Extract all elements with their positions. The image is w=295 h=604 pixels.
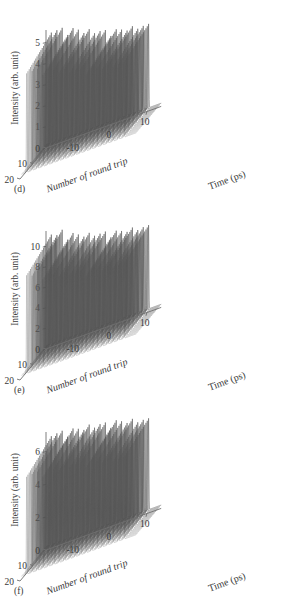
panel-f: 642-1001020100Intensity (arb. unit)Numbe…	[0, 402, 295, 603]
y-axis-label: Intensity (arb. unit)	[10, 51, 21, 125]
figure-page: 54321-1001020100Intensity (arb. unit)Num…	[0, 0, 295, 604]
x-axis-label: Time (ps)	[207, 570, 248, 595]
svg-text:10: 10	[31, 242, 41, 252]
svg-text:20: 20	[5, 577, 15, 587]
z-axis-label: Number of round trip	[44, 155, 129, 195]
panel-f-plot: 642-1001020100Intensity (arb. unit)Numbe…	[0, 402, 295, 603]
svg-text:-10: -10	[66, 344, 79, 354]
svg-text:10: 10	[140, 519, 150, 529]
svg-text:0: 0	[106, 331, 111, 341]
svg-text:10: 10	[18, 561, 28, 571]
svg-text:10: 10	[18, 159, 28, 169]
panel-tag: (e)	[14, 385, 25, 396]
svg-text:0: 0	[35, 144, 40, 154]
x-axis-label: Time (ps)	[207, 369, 248, 394]
z-axis-label: Number of round trip	[44, 356, 129, 396]
svg-text:-10: -10	[66, 143, 79, 153]
svg-text:5: 5	[35, 38, 40, 48]
panel-e-plot: 108642-1001020100Intensity (arb. unit)Nu…	[0, 201, 295, 402]
svg-text:10: 10	[18, 360, 28, 370]
svg-text:0: 0	[35, 546, 40, 556]
panel-e: 108642-1001020100Intensity (arb. unit)Nu…	[0, 201, 295, 402]
y-axis-label: Intensity (arb. unit)	[10, 453, 21, 527]
svg-text:20: 20	[5, 175, 15, 185]
panel-d-plot: 54321-1001020100Intensity (arb. unit)Num…	[0, 0, 295, 201]
panel-tag: (f)	[14, 586, 24, 597]
x-axis-label: Time (ps)	[207, 168, 248, 193]
svg-text:0: 0	[35, 345, 40, 355]
y-axis-label: Intensity (arb. unit)	[10, 252, 21, 326]
svg-text:10: 10	[140, 117, 150, 127]
svg-text:0: 0	[106, 532, 111, 542]
svg-text:20: 20	[5, 376, 15, 386]
svg-text:0: 0	[106, 130, 111, 140]
svg-text:10: 10	[140, 318, 150, 328]
panel-tag: (d)	[14, 184, 25, 195]
svg-text:-10: -10	[66, 545, 79, 555]
z-axis-label: Number of round trip	[44, 557, 129, 597]
svg-text:6: 6	[35, 447, 40, 457]
panel-d: 54321-1001020100Intensity (arb. unit)Num…	[0, 0, 295, 201]
